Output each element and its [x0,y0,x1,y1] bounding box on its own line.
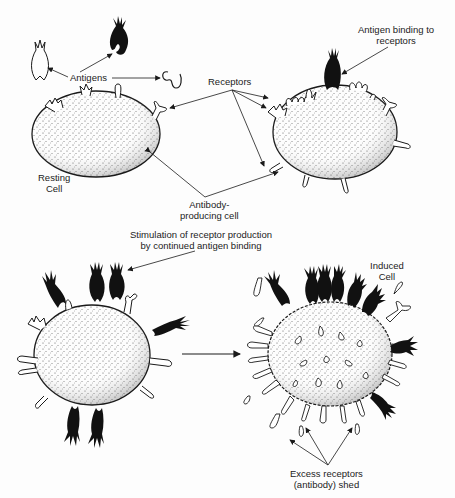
label-antibody-producing-cell: Antibody- producing cell [180,199,239,221]
label-resting-line2: Cell [38,183,70,194]
receptors-pointers [170,90,268,166]
label-antigen-binding: Antigen binding to receptors [358,24,434,46]
antibody-producing-cell [268,48,410,193]
antigen-coil-icon [163,72,181,88]
label-stimulation: Stimulation of receptor production by co… [130,229,272,251]
antigen-black-icon [110,16,128,55]
diagram-canvas: Antigens Receptors Antigen binding to re… [0,0,455,498]
label-resting-cell: Resting Cell [38,172,70,194]
stimulated-cell [18,262,191,448]
label-antibody-line2: producing cell [180,210,239,221]
label-resting-line1: Resting [38,172,70,183]
label-excess-receptors: Excess receptors (antibody) shed [290,468,363,490]
label-excess-line2: (antibody) shed [290,479,363,490]
label-antigen-binding-line2: receptors [358,35,434,46]
label-stimulation-line1: Stimulation of receptor production [130,229,272,240]
label-excess-line1: Excess receptors [290,468,363,479]
label-antibody-line1: Antibody- [180,199,239,210]
label-receptors: Receptors [208,76,251,87]
label-antigens: Antigens [70,72,107,83]
label-induced-line1: Induced [370,260,404,271]
label-induced-line2: Cell [370,271,404,282]
label-antigen-binding-line1: Antigen binding to [358,24,434,35]
induced-cell [244,264,418,437]
resting-cell [32,84,167,177]
antigen-outline-icon [32,40,49,80]
label-induced-cell: Induced Cell [370,260,404,282]
label-stimulation-line2: by continued antigen binding [130,240,272,251]
